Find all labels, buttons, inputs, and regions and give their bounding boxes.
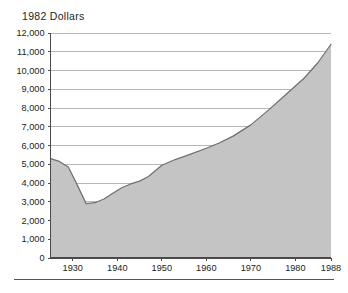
area-chart-plot: 12,00011,00010,0009,0008,0007,0006,0005,…	[0, 0, 348, 293]
y-tick-label: 8,000	[22, 103, 45, 113]
chart-figure: 1982 Dollars 12,00011,00010,0009,0008,00…	[0, 0, 348, 293]
y-tick-label: 7,000	[22, 122, 45, 132]
area-series	[51, 44, 332, 258]
y-tick-label: 9,000	[22, 84, 45, 94]
x-tick-label: 1940	[107, 263, 127, 273]
y-tick-label: 4,000	[22, 178, 45, 188]
y-tick-label: 11,000	[17, 47, 44, 57]
x-tick-label: 1930	[63, 263, 83, 273]
x-tick-label: 1950	[152, 263, 172, 273]
x-axis-tick-labels: 1930194019501960197019801988	[63, 263, 342, 273]
y-tick-label: 1,000	[22, 234, 45, 244]
y-tick-label: 0	[39, 253, 44, 263]
y-tick-label: 3,000	[22, 197, 45, 207]
footer-divider	[14, 279, 334, 280]
x-tick-label: 1988	[321, 263, 341, 273]
x-tick-label: 1960	[196, 263, 216, 273]
y-tick-label: 2,000	[22, 216, 45, 226]
x-tick-label: 1980	[285, 263, 305, 273]
footer-note	[20, 283, 340, 293]
x-tick-label: 1970	[241, 263, 261, 273]
y-tick-label: 12,000	[16, 28, 44, 38]
y-axis-tick-labels: 12,00011,00010,0009,0008,0007,0006,0005,…	[16, 28, 44, 263]
y-tick-label: 6,000	[22, 141, 45, 151]
y-tick-label: 10,000	[16, 66, 44, 76]
y-tick-label: 5,000	[22, 159, 45, 169]
